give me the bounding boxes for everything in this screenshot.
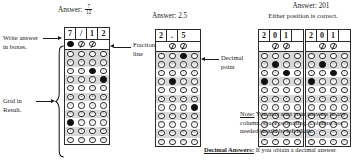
answer-entry-cell[interactable] — [339, 30, 350, 41]
bubble-cell[interactable]: 1 — [306, 69, 317, 78]
bubble-cell[interactable]: 1 — [156, 69, 167, 78]
bubble-digit-8[interactable]: 8 — [180, 130, 186, 136]
bubble-cell[interactable]: 6 — [167, 112, 178, 121]
digit-bubble-row[interactable]: 9999 — [259, 138, 303, 147]
fraction-slash-bubble[interactable] — [78, 41, 84, 47]
fraction-slash-bubble[interactable] — [169, 43, 175, 49]
bubble-digit-7[interactable]: 7 — [100, 119, 106, 125]
bubble-cell[interactable] — [76, 40, 87, 49]
bubble-digit-0[interactable]: 0 — [308, 61, 314, 67]
bubble-cell[interactable]: 4 — [292, 95, 303, 104]
bubble-cell[interactable]: 3 — [87, 84, 98, 93]
bubble-cell[interactable]: · — [292, 52, 303, 61]
bubble-cell[interactable] — [328, 42, 339, 51]
bubble-digit-7[interactable]: 7 — [89, 119, 95, 125]
bubble-digit-3[interactable]: 3 — [89, 85, 95, 91]
bubble-digit-6[interactable]: 6 — [78, 111, 84, 117]
bubble-cell[interactable]: · — [281, 52, 292, 61]
digit-bubble-row[interactable]: 0000 — [156, 60, 200, 69]
bubble-cell[interactable]: 4 — [178, 95, 189, 104]
bubble-filled[interactable] — [283, 70, 289, 76]
digit-bubble-row[interactable]: 222 — [65, 75, 109, 84]
bubble-cell[interactable]: 5 — [167, 103, 178, 112]
digit-bubble-row[interactable]: 000 — [306, 60, 350, 69]
digit-bubble-row[interactable]: 0000 — [65, 58, 109, 67]
bubble-cell[interactable]: 6 — [98, 110, 109, 119]
bubble-cell[interactable]: 3 — [259, 86, 270, 95]
bubble-digit-4[interactable]: 4 — [330, 96, 336, 102]
answer-entry-cell[interactable]: 1 — [281, 30, 292, 41]
bubble-filled[interactable] — [100, 76, 106, 82]
bubble-cell[interactable]: 4 — [87, 93, 98, 102]
bubble-digit-9[interactable]: 9 — [308, 139, 314, 145]
bubble-cell[interactable]: 4 — [317, 95, 328, 104]
bubble-cell[interactable]: 2 — [292, 77, 303, 86]
bubble-cell[interactable]: · — [189, 52, 200, 61]
bubble-cell[interactable]: 9 — [281, 138, 292, 147]
bubble-cell[interactable] — [259, 77, 270, 86]
bubble-filled[interactable] — [261, 78, 267, 84]
bubble-cell[interactable]: 1 — [292, 69, 303, 78]
bubble-digit-0[interactable]: 0 — [330, 61, 336, 67]
fraction-bar-bubble-row[interactable] — [259, 42, 303, 51]
bubble-cell[interactable] — [339, 42, 350, 51]
bubble-digit-8[interactable]: 8 — [78, 128, 84, 134]
bubble-cell[interactable] — [98, 75, 109, 84]
bubble-cell[interactable]: 9 — [178, 138, 189, 147]
bubble-filled[interactable] — [180, 53, 186, 59]
bubble-digit-2[interactable]: 2 — [67, 76, 73, 82]
bubble-digit-0[interactable]: 0 — [294, 61, 300, 67]
bubble-cell[interactable]: · — [317, 52, 328, 61]
bubble-digit-8[interactable]: 8 — [191, 130, 197, 136]
bubble-cell[interactable]: · — [98, 50, 109, 59]
bubble-cell[interactable]: 0 — [292, 60, 303, 69]
bubble-cell[interactable] — [306, 42, 317, 51]
bubble-cell[interactable]: 0 — [306, 60, 317, 69]
bubble-digit-9[interactable]: 9 — [330, 139, 336, 145]
digit-bubble-row[interactable]: 111 — [259, 69, 303, 78]
bubble-digit-9[interactable]: 9 — [158, 139, 164, 145]
bubble-cell[interactable]: 3 — [65, 84, 76, 93]
bubble-digit-9[interactable]: 9 — [180, 139, 186, 145]
bubble-digit-4[interactable]: 4 — [180, 96, 186, 102]
bubble-cell[interactable] — [317, 42, 328, 51]
bubble-cell[interactable]: 1 — [167, 69, 178, 78]
bubble-digit-4[interactable]: 4 — [341, 96, 347, 102]
bubble-digit-0[interactable]: 0 — [78, 59, 84, 65]
bubble-cell[interactable]: 4 — [306, 95, 317, 104]
digit-bubble-row[interactable]: 4444 — [156, 95, 200, 104]
bubble-digit-1[interactable]: 1 — [294, 70, 300, 76]
bubble-digit-1[interactable]: 1 — [78, 68, 84, 74]
bubble-cell[interactable]: 0 — [65, 58, 76, 67]
bubble-cell[interactable]: 2 — [65, 75, 76, 84]
bubble-digit-6[interactable]: 6 — [169, 113, 175, 119]
bubble-cell[interactable]: 2 — [178, 77, 189, 86]
bubble-digit-0[interactable]: 0 — [67, 59, 73, 65]
bubble-cell[interactable]: · — [156, 52, 167, 61]
digit-bubble-row[interactable]: 555 — [156, 103, 200, 112]
bubble-cell[interactable]: 1 — [259, 69, 270, 78]
bubble-digit-3[interactable]: 3 — [78, 85, 84, 91]
bubble-digit-9[interactable]: 9 — [283, 139, 289, 145]
bubble-digit-2[interactable]: 2 — [319, 78, 325, 84]
digit-bubble-row[interactable]: 222 — [259, 77, 303, 86]
bubble-digit-7[interactable]: 7 — [191, 121, 197, 127]
digit-bubble-row[interactable]: 8888 — [156, 129, 200, 138]
bubble-cell[interactable]: 7 — [87, 118, 98, 127]
bubble-digit-9[interactable]: 9 — [319, 139, 325, 145]
bubble-cell[interactable]: 4 — [76, 93, 87, 102]
bubble-cell[interactable]: 9 — [87, 136, 98, 145]
bubble-digit-0[interactable]: 0 — [89, 59, 95, 65]
bubble-digit-9[interactable]: 9 — [191, 139, 197, 145]
decimal-point-bubble-row[interactable]: ···· — [259, 51, 303, 61]
bubble-cell[interactable]: 8 — [65, 127, 76, 136]
digit-bubble-row[interactable]: 9999 — [65, 136, 109, 145]
answer-entry-cell[interactable]: 2 — [156, 30, 167, 41]
bubble-digit-1[interactable]: 1 — [341, 70, 347, 76]
bubble-digit-0[interactable]: 0 — [100, 59, 106, 65]
decimal-point-bubble[interactable]: · — [100, 51, 106, 57]
bubble-cell[interactable]: 3 — [270, 86, 281, 95]
bubble-cell[interactable]: 7 — [76, 118, 87, 127]
digit-bubble-row[interactable]: 000 — [259, 60, 303, 69]
bubble-cell[interactable]: 9 — [76, 136, 87, 145]
